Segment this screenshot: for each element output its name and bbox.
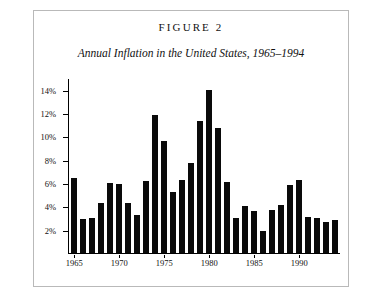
- bar: [125, 203, 131, 253]
- y-axis-tick-label: 12%: [40, 109, 56, 119]
- y-axis-tick: [63, 91, 68, 92]
- y-axis-tick: [63, 114, 68, 115]
- x-axis-tick-label: 1965: [66, 258, 83, 268]
- y-axis-tick: [63, 184, 68, 185]
- x-axis-tick-label: 1970: [111, 258, 128, 268]
- bar: [107, 183, 113, 253]
- bar: [242, 206, 248, 253]
- x-axis-baseline: [68, 253, 340, 254]
- y-axis-tick: [63, 161, 68, 162]
- x-axis-tick-label: 1990: [291, 258, 308, 268]
- bar: [269, 210, 275, 253]
- bar: [206, 90, 212, 253]
- y-axis-tick-label: 2%: [45, 226, 56, 236]
- y-axis-tick-label: 8%: [45, 156, 56, 166]
- bar: [179, 180, 185, 254]
- x-axis-tick-label: 1980: [201, 258, 218, 268]
- bar: [116, 184, 122, 253]
- bar: [287, 185, 293, 253]
- y-axis-line: [68, 79, 69, 254]
- y-axis-tick-label: 10%: [40, 132, 56, 142]
- bar: [296, 180, 302, 254]
- bar: [305, 217, 311, 253]
- bar: [71, 178, 77, 253]
- bar: [224, 182, 230, 253]
- bar: [278, 205, 284, 253]
- bar: [143, 181, 149, 253]
- x-axis-tick-label: 1975: [156, 258, 173, 268]
- y-axis-tick-label: 14%: [40, 86, 56, 96]
- bar: [89, 218, 95, 253]
- bar: [233, 218, 239, 253]
- bar: [251, 211, 257, 253]
- bar-chart-plot-area: 2%4%6%8%10%12%14% 1965197019751980198519…: [68, 79, 338, 254]
- bar: [134, 215, 140, 254]
- y-axis-tick: [63, 231, 68, 232]
- y-axis-tick-label: 4%: [45, 202, 56, 212]
- bar: [314, 218, 320, 253]
- bar: [197, 121, 203, 253]
- y-axis-tick: [63, 137, 68, 138]
- bar: [332, 220, 338, 253]
- y-axis-tick-label: 6%: [45, 179, 56, 189]
- bar: [152, 115, 158, 253]
- figure-container: FIGURE 2 Annual Inflation in the United …: [33, 10, 349, 287]
- bar: [260, 231, 266, 253]
- x-axis-tick-label: 1985: [246, 258, 263, 268]
- bar: [98, 203, 104, 253]
- y-axis-tick: [63, 207, 68, 208]
- figure-subtitle: Annual Inflation in the United States, 1…: [34, 47, 348, 59]
- bar: [188, 163, 194, 253]
- bar: [161, 141, 167, 253]
- bar: [323, 222, 329, 254]
- bar: [80, 219, 86, 253]
- bar: [170, 192, 176, 253]
- bar: [215, 128, 221, 253]
- figure-label: FIGURE 2: [34, 21, 348, 33]
